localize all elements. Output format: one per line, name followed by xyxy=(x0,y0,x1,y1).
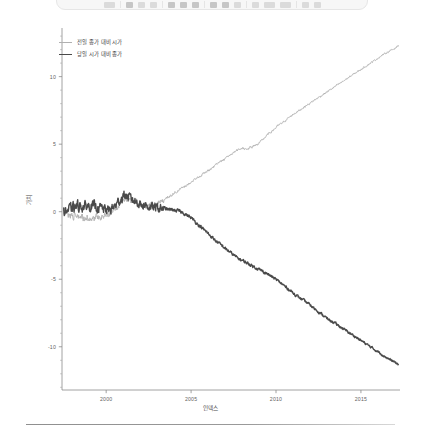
legend-item-open-vs-prev-close: 전일 종가 대비 시가 xyxy=(59,36,123,48)
y-tick-label: 10 xyxy=(28,74,56,80)
screenshot-root: -10-50510 2000200520102015 가치 인덱스 전일 종가 … xyxy=(0,0,421,444)
y-tick-label: 5 xyxy=(28,141,56,147)
legend-line-icon xyxy=(59,42,72,43)
chart-figure: -10-50510 2000200520102015 가치 인덱스 전일 종가 … xyxy=(0,0,421,421)
x-axis-title: 인덱스 xyxy=(0,404,421,412)
y-tick-label: -5 xyxy=(28,276,56,282)
y-tick-label: -10 xyxy=(28,344,56,350)
x-tick-label: 2015 xyxy=(341,396,381,402)
legend-label: 전일 종가 대비 시가 xyxy=(77,38,123,46)
x-tick-label: 2010 xyxy=(256,396,296,402)
y-tick-label: 0 xyxy=(28,209,56,215)
chart-legend: 전일 종가 대비 시가 당일 시가 대비 종가 xyxy=(59,36,123,60)
y-axis-title: 가치 xyxy=(25,193,33,207)
series-line xyxy=(64,191,399,365)
series-line xyxy=(64,46,399,221)
x-tick-label: 2000 xyxy=(86,396,126,402)
bottom-divider xyxy=(26,424,395,425)
legend-item-close-vs-open: 당일 시가 대비 종가 xyxy=(59,48,123,60)
x-tick-label: 2005 xyxy=(171,396,211,402)
legend-line-icon xyxy=(59,54,72,55)
line-chart-plot xyxy=(0,0,421,421)
legend-label: 당일 시가 대비 종가 xyxy=(77,50,123,58)
